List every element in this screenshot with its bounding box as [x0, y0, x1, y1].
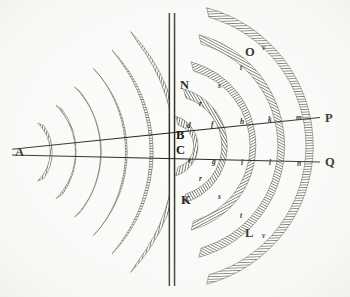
- diffraction-diagram: A B C N K P Q O L d f h k m e g i l n r …: [0, 0, 350, 297]
- mark-lower-s: s: [217, 192, 221, 201]
- label-aperture-top: B: [176, 128, 184, 142]
- mark-d: d: [187, 121, 191, 130]
- label-wave-o: O: [245, 45, 255, 59]
- label-aperture-bottom: C: [176, 143, 185, 157]
- label-wave-l: L: [245, 226, 253, 240]
- label-barrier-upper: N: [180, 78, 189, 92]
- barrier-line-left: [169, 13, 171, 286]
- mark-g: g: [211, 157, 216, 166]
- mark-upper-s: s: [217, 81, 221, 90]
- engraving-figure: A B C N K P Q O L d f h k m e g i l n r …: [0, 0, 350, 297]
- mark-lower-r: r: [199, 174, 202, 183]
- label-barrier-lower: K: [181, 193, 191, 207]
- mark-upper-r: r: [199, 99, 202, 108]
- label-source: A: [15, 145, 24, 159]
- mark-n: n: [297, 159, 301, 168]
- label-ray-q: Q: [325, 155, 335, 169]
- mark-m: m: [296, 113, 302, 122]
- mark-h: h: [240, 117, 244, 126]
- mark-k: k: [268, 115, 272, 124]
- label-ray-p: P: [325, 111, 333, 125]
